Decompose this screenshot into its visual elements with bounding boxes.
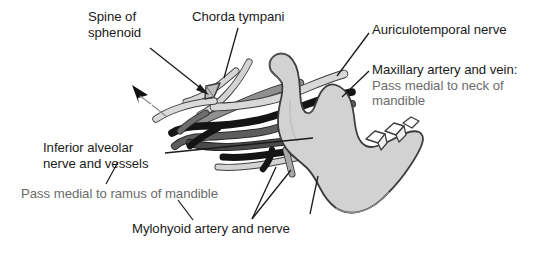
mylohyoid-artery-nerve-text: Mylohyoid artery and nerve — [132, 221, 290, 237]
pass-medial-ramus-label: Pass medial to ramus of mandible — [21, 186, 218, 202]
auriculotemporal-nerve-text: Auriculotemporal nerve — [372, 22, 507, 38]
pass-medial-ramus-text: Pass medial to ramus of mandible — [21, 186, 218, 202]
maxillary-sub-text-line2: mandible — [372, 93, 517, 109]
inferior-alveolar-label: Inferior alveolar nerve and vessels — [43, 140, 148, 171]
mylohyoid-artery-nerve-label: Mylohyoid artery and nerve — [132, 221, 290, 237]
auriculotemporal-nerve-label: Auriculotemporal nerve — [372, 22, 507, 38]
chorda-tympani-label: Chorda tympani — [192, 9, 284, 25]
spine-of-sphenoid-label: Spine of sphenoid — [88, 9, 141, 40]
leader-mylohyoid-c — [310, 176, 318, 214]
anatomy-illustration — [0, 0, 548, 255]
maxillary-artery-vein-label: Maxillary artery and vein: Pass medial t… — [372, 62, 517, 109]
spine-of-sphenoid-line2: sphenoid — [88, 25, 141, 41]
maxillary-main-text: Maxillary artery and vein: — [372, 62, 517, 78]
anatomical-figure: Spine of sphenoid Chorda tympani Auricul… — [0, 0, 548, 255]
inferior-alveolar-line1: Inferior alveolar — [43, 140, 148, 156]
leader-ramus-to-mylohyoid — [178, 200, 193, 220]
spine-of-sphenoid — [205, 83, 220, 99]
maxillary-sub-text-line1: Pass medial to neck of — [372, 78, 517, 94]
chorda-tympani-text: Chorda tympani — [192, 9, 284, 25]
leader-spine-of-sphenoid — [150, 48, 209, 95]
inferior-alveolar-line2: nerve and vessels — [43, 156, 148, 172]
direction-arrow — [132, 85, 166, 116]
spine-of-sphenoid-line1: Spine of — [88, 9, 141, 25]
leader-auriculotemporal — [337, 33, 369, 76]
